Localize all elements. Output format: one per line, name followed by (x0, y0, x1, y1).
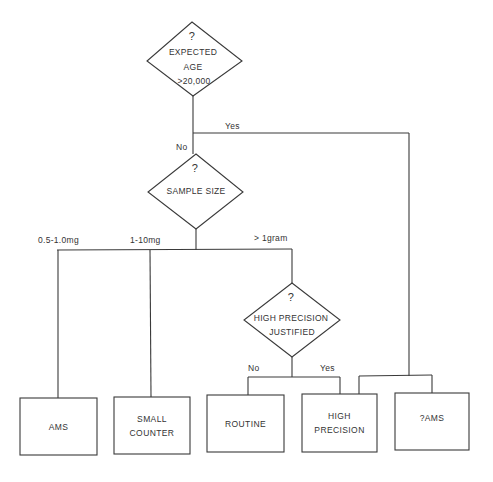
outcome-q-ams: ?AMS (395, 393, 469, 443)
edge-label-precision-no: No (248, 364, 259, 373)
edge-label-age-no: No (176, 143, 187, 152)
outcome-small-counter-line2: COUNTER (130, 426, 175, 440)
outcome-high-precision: HIGH PRECISION (302, 394, 377, 452)
flowchart: ? EXPECTED AGE >20,000 Yes No ? SAMPLE S… (0, 0, 493, 482)
decision-high-precision-line2: JUSTIFIED (269, 328, 315, 337)
outcome-ams-label: AMS (49, 420, 69, 434)
edge-label-size-medium: 1-10mg (130, 236, 161, 245)
edge-label-precision-yes: Yes (320, 364, 335, 373)
outcome-high-precision-line2: PRECISION (314, 423, 364, 437)
edge-label-size-large: > 1gram (254, 234, 288, 243)
decision-sample-size-question: ? (192, 163, 198, 174)
decision-expected-age-question: ? (189, 31, 195, 42)
decision-sample-size-line1: SAMPLE SIZE (166, 187, 225, 196)
outcome-q-ams-label: ?AMS (420, 411, 445, 425)
decision-high-precision-line1: HIGH PRECISION (254, 314, 329, 323)
outcome-routine: ROUTINE (207, 395, 284, 452)
decision-expected-age-line3: >20,000 (177, 77, 210, 86)
decision-expected-age-line1: EXPECTED (169, 48, 217, 57)
decision-expected-age-line2: AGE (184, 63, 203, 72)
outcome-high-precision-line1: HIGH (328, 409, 351, 423)
outcome-small-counter: SMALL COUNTER (114, 397, 190, 454)
decision-high-precision-question: ? (288, 292, 294, 303)
edge-label-size-small: 0.5-1.0mg (38, 236, 79, 245)
outcome-ams: AMS (20, 398, 97, 455)
outcome-small-counter-line1: SMALL (137, 412, 167, 426)
edge-label-age-yes: Yes (225, 122, 240, 131)
outcome-routine-label: ROUTINE (225, 417, 266, 431)
